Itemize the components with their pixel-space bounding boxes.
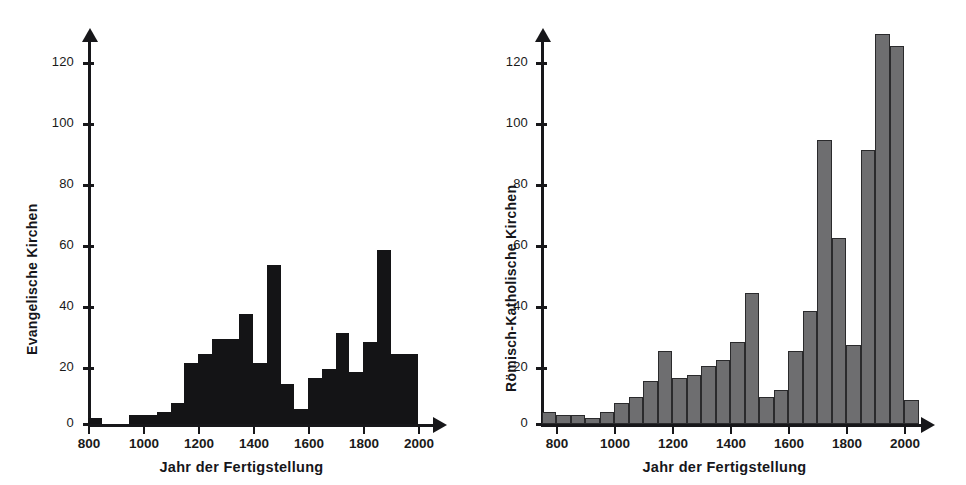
y-tick-label-right: 120 (483, 54, 528, 69)
histogram-bar (687, 375, 702, 424)
y-tick-left (83, 184, 94, 187)
y-axis-arrow-left (82, 28, 98, 42)
histogram-bar (600, 412, 615, 424)
x-tick-label-right: 1600 (763, 436, 815, 451)
x-tick-label-left: 800 (63, 436, 115, 451)
histogram-bar (239, 314, 253, 424)
y-tick-left (83, 367, 94, 370)
y-tick-right (536, 62, 547, 65)
x-tick-label-left: 1400 (228, 436, 280, 451)
histogram-bar (875, 34, 890, 424)
x-tick-left (198, 425, 200, 434)
y-tick-label-right: 60 (483, 237, 528, 252)
histogram-bar (890, 46, 905, 424)
histogram-bar (157, 412, 171, 424)
histogram-bar (803, 311, 818, 424)
histogram-bar (846, 345, 861, 424)
y-tick-label-right: 0 (483, 415, 528, 430)
histogram-bar (817, 140, 832, 424)
histogram-bar (281, 384, 295, 424)
y-tick-left (83, 62, 94, 65)
x-tick-label-right: 2000 (879, 436, 931, 451)
x-axis-arrow-left (433, 417, 447, 433)
y-tick-label-right: 80 (483, 176, 528, 191)
x-tick-label-right: 1400 (705, 436, 757, 451)
x-tick-right (730, 425, 732, 434)
histogram-bar (701, 366, 716, 424)
y-tick-right (536, 245, 547, 248)
histogram-bar (129, 415, 143, 424)
histogram-bar (556, 415, 571, 424)
histogram-bar (730, 342, 745, 424)
y-tick-right (536, 306, 547, 309)
histogram-bar (571, 415, 586, 424)
x-tick-label-left: 2000 (393, 436, 445, 451)
x-tick-label-right: 1000 (589, 436, 641, 451)
chart-panel-roemisch-katholische: Römisch-Katholische Kirchen 120 100 80 6… (483, 0, 966, 485)
x-tick-label-right: 1200 (647, 436, 699, 451)
x-axis-title-left: Jahr der Fertigstellung (0, 459, 483, 475)
x-tick-label-left: 1600 (283, 436, 335, 451)
x-axis-arrow-right (921, 417, 935, 433)
x-tick-right (788, 425, 790, 434)
x-tick-right (846, 425, 848, 434)
histogram-bar (322, 369, 336, 424)
x-tick-label-left: 1200 (173, 436, 225, 451)
histogram-bar (171, 403, 185, 424)
y-tick-label-left: 40 (28, 298, 74, 313)
y-tick-left (83, 245, 94, 248)
figure-canvas: Evangelische Kirchen 120 100 80 60 40 20… (0, 0, 966, 485)
histogram-bar (542, 412, 557, 424)
histogram-bar (658, 351, 673, 424)
histogram-bar (253, 363, 267, 424)
y-tick-label-left: 0 (28, 415, 74, 430)
y-tick-label-right: 40 (483, 298, 528, 313)
histogram-bar (308, 378, 322, 424)
y-tick-label-left: 60 (28, 237, 74, 252)
histogram-bar (861, 150, 876, 425)
x-tick-right (672, 425, 674, 434)
histogram-bar (774, 390, 789, 424)
x-tick-left (253, 425, 255, 434)
chart-panel-evangelische: Evangelische Kirchen 120 100 80 60 40 20… (0, 0, 483, 485)
y-tick-left (83, 306, 94, 309)
y-tick-label-left: 20 (28, 359, 74, 374)
plot-area-left: 120 100 80 60 40 20 0 800 1000 1200 14 (0, 0, 483, 485)
x-axis-line-left (88, 424, 433, 427)
x-tick-left (308, 425, 310, 434)
x-tick-left (418, 425, 420, 434)
y-tick-label-left: 100 (28, 115, 74, 130)
histogram-bar (349, 372, 363, 424)
y-tick-right (536, 367, 547, 370)
histogram-bar (904, 400, 919, 424)
histogram-bar (404, 354, 418, 424)
histogram-bar (336, 333, 350, 425)
histogram-bar (614, 403, 629, 424)
x-tick-label-left: 1800 (338, 436, 390, 451)
y-tick-label-left: 80 (28, 176, 74, 191)
y-tick-label-right: 20 (483, 359, 528, 374)
histogram-bar (294, 409, 308, 424)
histogram-bar (643, 381, 658, 424)
histogram-bar (759, 397, 774, 424)
y-tick-label-right: 100 (483, 115, 528, 130)
y-tick-left (83, 123, 94, 126)
x-axis-title-right: Jahr der Fertigstellung (483, 459, 966, 475)
histogram-bar (377, 250, 391, 424)
x-tick-label-left: 1000 (118, 436, 170, 451)
histogram-bar (212, 339, 226, 424)
histogram-bar (198, 354, 212, 424)
y-tick-label-left: 120 (28, 54, 74, 69)
y-tick-right (536, 123, 547, 126)
histogram-bar (716, 360, 731, 424)
x-tick-left (363, 425, 365, 434)
histogram-bar (585, 418, 600, 424)
histogram-bar (226, 339, 240, 424)
y-tick-right (536, 184, 547, 187)
x-tick-left (88, 425, 90, 434)
histogram-bar (788, 351, 803, 424)
x-tick-right (556, 425, 558, 434)
histogram-bar (184, 363, 198, 424)
histogram-bar (629, 397, 644, 424)
plot-area-right: 120 100 80 60 40 20 0 800 1000 1200 1400 (483, 0, 966, 485)
